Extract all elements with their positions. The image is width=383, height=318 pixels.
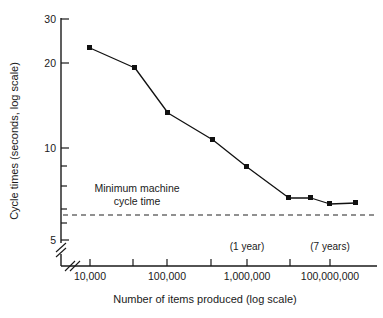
data-point — [286, 195, 291, 200]
y-tick-label-30: 30 — [44, 13, 56, 25]
data-point — [210, 137, 215, 142]
x-tick-label-100000000: 100,000,000 — [301, 270, 360, 282]
y-axis-title: Cycle times (seconds, log scale) — [8, 62, 20, 220]
y-tick-label-20: 20 — [44, 57, 56, 69]
x-axis-ticks — [90, 259, 330, 266]
chart-svg: Cycle times (seconds, log scale) 30 20 1… — [0, 0, 383, 318]
one-year-marker-label: (1 year) — [230, 241, 264, 252]
minimum-cycle-time-label-line1: Minimum machine — [94, 182, 179, 194]
x-tick-label-100000: 100,000 — [148, 270, 186, 282]
data-point — [327, 201, 332, 206]
data-point — [308, 195, 313, 200]
y-tick-label-5: 5 — [50, 234, 56, 246]
y-axis-major-ticks — [61, 19, 69, 240]
data-point — [244, 164, 249, 169]
data-point — [132, 65, 137, 70]
data-point — [165, 110, 170, 115]
minimum-cycle-time-label-line2: cycle time — [114, 195, 161, 207]
cycle-time-series-line — [90, 48, 356, 204]
data-point — [87, 45, 92, 50]
chart-figure: Cycle times (seconds, log scale) 30 20 1… — [0, 0, 383, 318]
x-tick-label-10000: 10,000 — [74, 270, 106, 282]
y-tick-label-10: 10 — [44, 142, 56, 154]
seven-years-marker-label: (7 years) — [310, 241, 349, 252]
data-point — [353, 200, 358, 205]
x-tick-label-1000000: 1,000,000 — [224, 270, 271, 282]
x-axis-title: Number of items produced (log scale) — [113, 293, 296, 305]
